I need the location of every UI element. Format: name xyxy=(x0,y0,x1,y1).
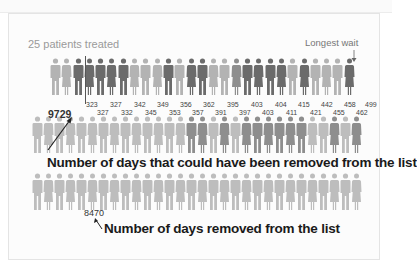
man-figure-icon xyxy=(98,116,109,154)
man-figure-icon xyxy=(163,58,174,96)
man-figure-icon xyxy=(54,173,65,211)
woman-figure-icon xyxy=(152,58,163,96)
woman-figure-icon xyxy=(109,116,120,154)
woman-figure-icon xyxy=(285,173,296,211)
top-figure-row xyxy=(50,58,355,96)
man-figure-icon xyxy=(186,116,197,154)
woman-figure-icon xyxy=(87,116,98,154)
days-could-remove-total: 9729 xyxy=(48,108,71,120)
woman-figure-icon xyxy=(307,173,318,211)
man-figure-icon xyxy=(197,58,208,96)
woman-figure-icon xyxy=(109,173,120,211)
woman-figure-icon xyxy=(219,173,230,211)
wait-days-label: 357 xyxy=(192,109,204,116)
wait-days-label: 499 xyxy=(365,101,377,108)
man-figure-icon xyxy=(120,173,131,211)
wait-days-label: 415 xyxy=(298,101,310,108)
woman-figure-icon xyxy=(208,58,219,96)
woman-figure-icon xyxy=(231,58,242,96)
man-figure-icon xyxy=(142,116,153,154)
woman-figure-icon xyxy=(65,116,76,154)
man-figure-icon xyxy=(164,116,175,154)
woman-figure-icon xyxy=(61,58,72,96)
man-figure-icon xyxy=(32,116,43,154)
woman-figure-icon xyxy=(307,116,318,154)
woman-figure-icon xyxy=(253,58,264,96)
man-figure-icon xyxy=(274,173,285,211)
woman-figure-icon xyxy=(131,173,142,211)
woman-figure-icon xyxy=(344,58,355,96)
woman-figure-icon xyxy=(263,173,274,211)
wait-days-label: 403 xyxy=(262,109,274,116)
woman-figure-icon xyxy=(241,173,252,211)
middle-figure-row xyxy=(32,116,362,154)
woman-figure-icon xyxy=(175,173,186,211)
woman-figure-icon xyxy=(329,173,340,211)
man-figure-icon xyxy=(142,173,153,211)
man-figure-icon xyxy=(230,173,241,211)
man-figure-icon xyxy=(54,116,65,154)
woman-figure-icon xyxy=(197,116,208,154)
man-figure-icon xyxy=(296,116,307,154)
woman-figure-icon xyxy=(43,116,54,154)
woman-figure-icon xyxy=(153,116,164,154)
woman-figure-icon xyxy=(65,173,76,211)
woman-figure-icon xyxy=(219,116,230,154)
man-figure-icon xyxy=(95,58,106,96)
man-figure-icon xyxy=(340,173,351,211)
caption-removed: Number of days removed from the list xyxy=(104,221,340,236)
woman-figure-icon xyxy=(299,58,310,96)
man-figure-icon xyxy=(318,173,329,211)
top-strip xyxy=(0,0,392,13)
wait-days-label: 342 xyxy=(134,101,146,108)
man-figure-icon xyxy=(140,58,151,96)
woman-figure-icon xyxy=(87,173,98,211)
woman-figure-icon xyxy=(129,58,140,96)
woman-figure-icon xyxy=(153,173,164,211)
man-figure-icon xyxy=(174,58,185,96)
man-figure-icon xyxy=(219,58,230,96)
woman-figure-icon xyxy=(186,58,197,96)
woman-figure-icon xyxy=(276,58,287,96)
man-figure-icon xyxy=(186,173,197,211)
man-figure-icon xyxy=(340,116,351,154)
wait-days-label: 442 xyxy=(321,101,333,108)
wait-days-label: 458 xyxy=(344,101,356,108)
wait-days-label: 353 xyxy=(169,109,181,116)
woman-figure-icon xyxy=(197,173,208,211)
man-figure-icon xyxy=(318,116,329,154)
woman-figure-icon xyxy=(43,173,54,211)
man-figure-icon xyxy=(310,58,321,96)
woman-figure-icon xyxy=(351,173,362,211)
wait-days-label: 327 xyxy=(110,101,122,108)
wait-days-label: 395 xyxy=(227,101,239,108)
wait-days-label: 332 xyxy=(121,109,133,116)
wait-days-label: 391 xyxy=(215,109,227,116)
patients-treated-label: 25 patients treated xyxy=(28,38,119,50)
woman-figure-icon xyxy=(84,58,95,96)
wait-days-label: 349 xyxy=(157,101,169,108)
wait-days-label: 421 xyxy=(310,109,322,116)
wait-days-label: 462 xyxy=(356,109,368,116)
man-figure-icon xyxy=(76,116,87,154)
man-figure-icon xyxy=(274,116,285,154)
man-figure-icon xyxy=(208,116,219,154)
woman-figure-icon xyxy=(131,116,142,154)
man-figure-icon xyxy=(287,58,298,96)
man-figure-icon xyxy=(332,58,343,96)
wait-days-label: 362 xyxy=(203,101,215,108)
woman-figure-icon xyxy=(321,58,332,96)
days-removed-total: 8470 xyxy=(84,208,104,218)
man-figure-icon xyxy=(76,173,87,211)
man-figure-icon xyxy=(265,58,276,96)
wait-days-label: 356 xyxy=(180,101,192,108)
man-figure-icon xyxy=(296,173,307,211)
man-figure-icon xyxy=(164,173,175,211)
wait-days-label: 411 xyxy=(286,109,297,116)
woman-figure-icon xyxy=(329,116,340,154)
woman-figure-icon xyxy=(175,116,186,154)
wait-days-label: 403 xyxy=(251,101,263,108)
man-figure-icon xyxy=(73,58,84,96)
longest-wait-label: Longest wait xyxy=(305,37,358,48)
wait-days-label: 345 xyxy=(145,109,157,116)
